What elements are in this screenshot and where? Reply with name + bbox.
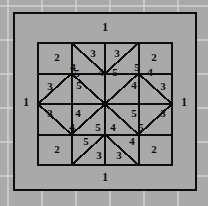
patch-r2c2-lower: 5: [76, 79, 82, 91]
patch-r2c1-upper: 5: [74, 67, 80, 79]
patch-r4c3-upper: 4: [129, 135, 135, 147]
border-right: 1: [181, 96, 187, 108]
patch-r3c3-lower: 4: [110, 121, 116, 133]
patch-r2c3-lower: 4: [131, 79, 137, 91]
patch-r3c4-lower: 5: [138, 121, 144, 133]
patch-r2c4-lower: 3: [160, 80, 166, 92]
quilt-block-diagram: 11112433525345544334455435253342: [0, 0, 208, 206]
patch-r2c1-lower: 3: [47, 80, 53, 92]
patch-r3c4-upper: 3: [160, 107, 166, 119]
patch-r3c1-upper: 3: [47, 107, 53, 119]
patch-r2c2-upper: 4: [98, 66, 104, 78]
diagram-canvas: 11112433525345544334455435253342: [0, 0, 208, 206]
patch-r3c3-upper: 5: [131, 107, 137, 119]
patch-r2c3-upper: 5: [112, 66, 118, 78]
patch-r3c2-upper: 4: [75, 107, 81, 119]
patch-r1c3-lower: 5: [134, 61, 140, 73]
border-top: 1: [102, 21, 108, 33]
patch-r4c3-lower: 3: [116, 149, 122, 161]
patch-r4c2-lower: 3: [96, 149, 102, 161]
patch-r4c2-upper: 5: [83, 135, 89, 147]
patch-r1c3-upper: 3: [114, 47, 120, 59]
patch-r4c4: 2: [151, 143, 157, 155]
patch-r4c1: 2: [54, 143, 60, 155]
border-bottom: 1: [102, 171, 108, 183]
patch-r2c4-upper: 4: [147, 66, 153, 78]
patch-r3c2-lower: 5: [95, 121, 101, 133]
patch-r1c1: 2: [54, 51, 60, 63]
patch-r3c1-lower: 4: [69, 121, 75, 133]
patch-r1c2-upper: 3: [90, 47, 96, 59]
border-left: 1: [23, 96, 29, 108]
patch-r1c4: 2: [151, 51, 157, 63]
